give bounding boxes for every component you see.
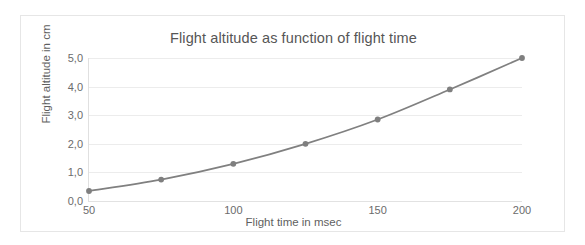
gridline	[89, 201, 522, 202]
chart-title: Flight altitude as function of flight ti…	[21, 30, 566, 46]
y-axis-tick-label: 0,0	[49, 195, 83, 207]
series-path	[89, 58, 522, 191]
x-axis-tick-label: 200	[513, 204, 531, 216]
x-axis-tick-label: 100	[224, 204, 242, 216]
chart-card: Flight altitude as function of flight ti…	[20, 15, 565, 232]
y-axis-tick-label: 3,0	[49, 109, 83, 121]
plot-area	[89, 58, 522, 201]
y-axis-tick-labels: 0,01,02,03,04,05,0	[49, 58, 83, 201]
data-point-marker	[519, 55, 525, 61]
data-series-line	[89, 58, 522, 201]
x-axis-tick-label: 50	[83, 204, 95, 216]
y-axis-tick-label: 1,0	[49, 166, 83, 178]
data-point-marker	[158, 177, 164, 183]
x-axis-tick-label: 150	[368, 204, 386, 216]
x-axis-title: Flight time in msec	[21, 216, 566, 228]
data-point-marker	[86, 188, 92, 194]
y-axis-tick-label: 2,0	[49, 138, 83, 150]
y-axis-tick-label: 5,0	[49, 52, 83, 64]
data-point-marker	[447, 87, 453, 93]
data-point-marker	[230, 161, 236, 167]
data-point-marker	[303, 141, 309, 147]
data-point-marker	[375, 117, 381, 123]
y-axis-tick-label: 4,0	[49, 81, 83, 93]
